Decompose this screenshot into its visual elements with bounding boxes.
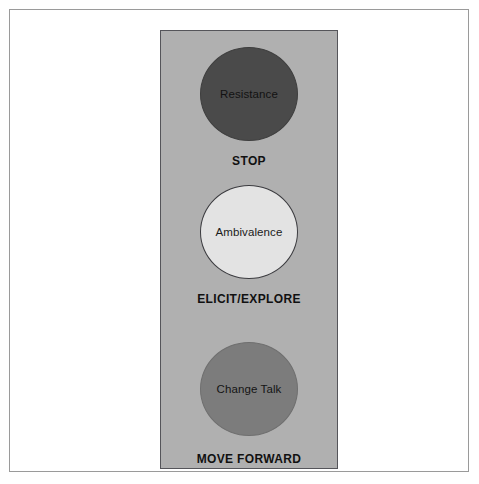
action-label-move-forward: MOVE FORWARD <box>161 452 337 466</box>
stage-resistance: Resistance STOP <box>161 47 337 168</box>
traffic-light-panel: Resistance STOP Ambivalence ELICIT/EXPLO… <box>160 30 338 469</box>
page-frame: Resistance STOP Ambivalence ELICIT/EXPLO… <box>9 9 469 472</box>
stage-change-talk: Change Talk MOVE FORWARD <box>161 342 337 466</box>
circle-label-ambivalence: Ambivalence <box>216 226 283 239</box>
traffic-light-amber-circle: Ambivalence <box>200 185 298 279</box>
action-label-stop: STOP <box>161 154 337 168</box>
action-label-elicit-explore: ELICIT/EXPLORE <box>161 292 337 306</box>
circle-label-change-talk: Change Talk <box>217 383 282 396</box>
stage-ambivalence: Ambivalence ELICIT/EXPLORE <box>161 185 337 306</box>
traffic-light-red-circle: Resistance <box>200 47 298 141</box>
circle-label-resistance: Resistance <box>220 88 278 101</box>
traffic-light-green-circle: Change Talk <box>200 342 298 436</box>
